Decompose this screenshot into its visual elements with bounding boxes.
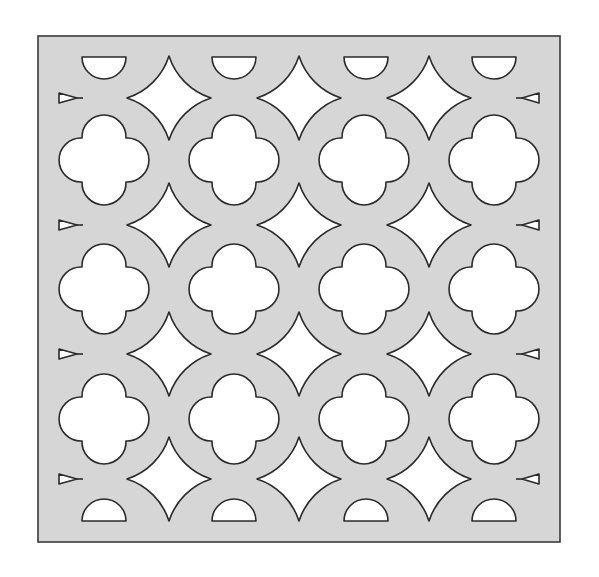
lattice-diagram bbox=[0, 0, 599, 577]
